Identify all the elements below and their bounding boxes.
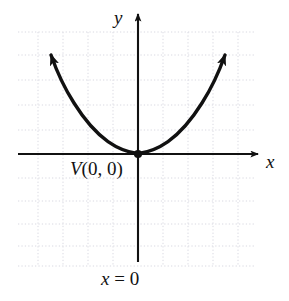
vertex-point — [134, 150, 142, 158]
x-axis-label-text: x — [266, 151, 274, 172]
graph-canvas — [0, 0, 289, 301]
parabola-right-branch — [139, 55, 225, 153]
vertex-label-coords: (0, 0) — [82, 158, 123, 179]
parabola-figure: y x V(0, 0) x = 0 — [0, 0, 289, 301]
vertex-label-letter: V — [70, 158, 82, 179]
axis-of-symmetry-equals: = 0 — [109, 268, 139, 289]
y-axis-label: y — [114, 8, 122, 27]
axes — [18, 14, 258, 262]
y-axis-label-text: y — [114, 7, 122, 28]
parabola-left-branch — [51, 55, 137, 153]
axis-of-symmetry-label: x = 0 — [101, 269, 139, 288]
vertex-label: V(0, 0) — [70, 159, 123, 178]
x-axis-label: x — [266, 152, 274, 171]
